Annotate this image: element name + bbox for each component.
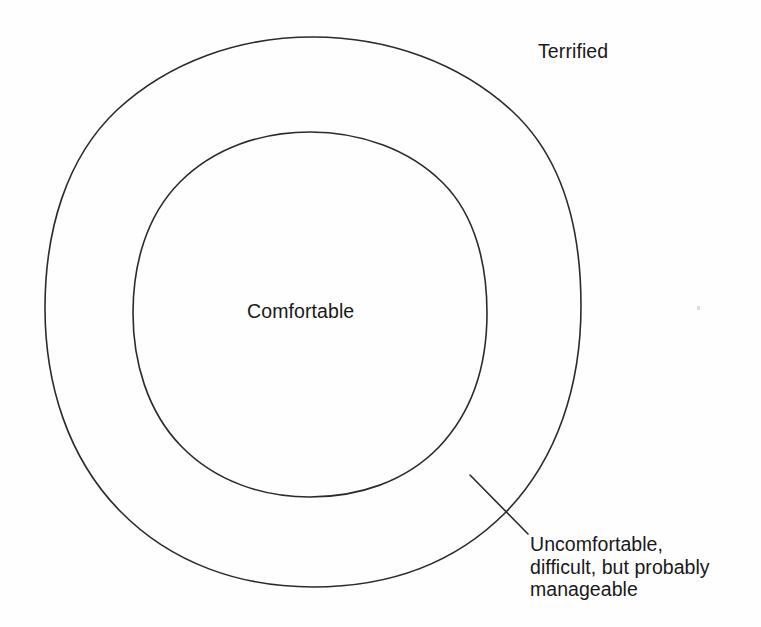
diagram-canvas: Terrified Comfortable Uncomfortable, dif… <box>0 0 761 627</box>
zone-label-uncomfortable-line-3: manageable <box>530 578 745 601</box>
zone-label-comfortable: Comfortable <box>247 300 354 323</box>
leader-line <box>470 475 528 534</box>
zone-label-terrified: Terrified <box>538 40 608 63</box>
zone-label-uncomfortable: Uncomfortable, difficult, but probably m… <box>530 533 745 601</box>
scan-artifact-speck <box>697 306 700 310</box>
zone-label-uncomfortable-line-1: Uncomfortable, <box>530 533 745 556</box>
zone-label-uncomfortable-line-2: difficult, but probably <box>530 556 745 579</box>
